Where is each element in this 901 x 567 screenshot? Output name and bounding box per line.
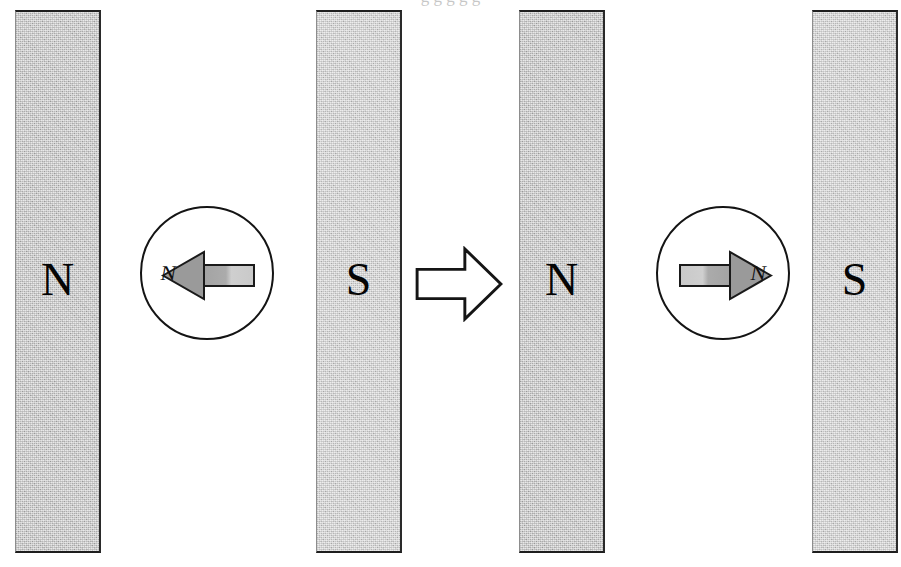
bar-magnet-3: N	[519, 10, 605, 553]
flow-arrow-right-icon	[414, 246, 504, 322]
bar-magnet-2: S	[316, 10, 402, 553]
pole-label-n-2: N	[545, 257, 578, 303]
compass-needle-right-icon	[658, 208, 792, 342]
bar-magnet-4: S	[812, 10, 898, 553]
needle-tail-right	[680, 265, 734, 286]
pole-label-s-1: S	[346, 257, 372, 303]
bar-magnet-1: N	[15, 10, 101, 553]
pole-label-n-1: N	[41, 257, 74, 303]
pole-label-s-2: S	[842, 257, 868, 303]
compass-right: N	[656, 206, 790, 340]
clipped-caption-above: g g g g g	[0, 0, 901, 7]
needle-tail-left	[200, 265, 254, 286]
figure-canvas: g g g g g N S N S N	[0, 0, 901, 567]
compass-left: N	[140, 206, 274, 340]
